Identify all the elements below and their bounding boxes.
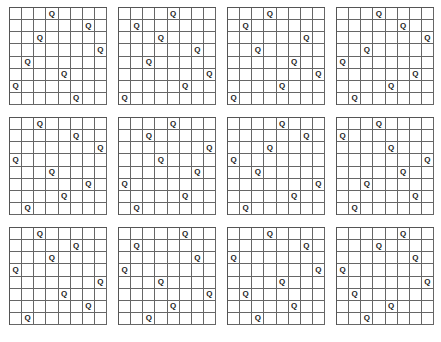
board-cell [301,20,313,32]
board-cell [373,191,385,203]
board-cell [277,32,289,44]
queen-icon: Q [59,289,71,301]
board-cell [34,179,46,191]
board-cell [240,179,252,191]
board-cell [240,167,252,179]
board-cell [131,44,143,56]
board-cell [22,252,34,264]
board-cell [22,118,34,130]
board-cell [46,57,58,69]
board-cell [337,301,349,313]
board-cell [22,301,34,313]
board-cell [95,81,107,93]
board-cell [386,57,398,69]
board-cell [228,264,240,276]
board-cell [398,203,410,215]
board-cell [46,277,58,289]
board-cell [143,118,155,130]
board-cell [301,203,313,215]
board-cell [252,57,264,69]
queen-icon: Q [83,179,95,191]
board-cell [180,32,192,44]
board-cell [59,240,71,252]
board-cell [289,142,301,154]
board-cell [301,277,313,289]
board-cell [361,93,373,105]
solutions-grid: QQQQQQQQQQQQQQQQQQQQQQQQQQQQQQQQQQQQQQQQ… [9,7,435,326]
board-cell [301,301,313,313]
board-cell [119,20,131,32]
board-cell [289,8,301,20]
board-cell [168,81,180,93]
board-cell [59,32,71,44]
board-cell [264,44,276,56]
queen-icon: Q [277,277,289,289]
queen-icon: Q [168,118,180,130]
queen-icon: Q [277,81,289,93]
board-cell [10,118,22,130]
board-cell [34,142,46,154]
board-cell [349,179,361,191]
board-cell [277,179,289,191]
chessboard-solution-1: QQQQQQQQ [9,7,107,105]
board-cell [22,8,34,20]
board-cell [46,44,58,56]
board-cell [168,130,180,142]
board-cell [410,93,422,105]
board-cell [180,167,192,179]
board-cell [119,32,131,44]
board-cell [34,289,46,301]
board-cell [119,118,131,130]
queen-icon: Q [252,167,264,179]
board-cell [59,8,71,20]
board-cell [34,81,46,93]
board-cell [289,228,301,240]
board-cell [10,313,22,325]
board-cell [361,81,373,93]
board-cell [34,44,46,56]
board-cell [373,154,385,166]
board-cell [398,179,410,191]
board-cell [410,81,422,93]
queen-icon: Q [361,313,373,325]
queen-icon: Q [143,57,155,69]
board-cell [131,32,143,44]
board-cell [386,252,398,264]
board-cell [398,69,410,81]
board-cell [204,179,216,191]
chessboard-solution-2: QQQQQQQQ [118,7,216,105]
board-cell [410,167,422,179]
board-cell [10,8,22,20]
board-cell [264,252,276,264]
board-cell [373,93,385,105]
board-cell [410,203,422,215]
board-cell [204,8,216,20]
board-cell [289,240,301,252]
board-cell [337,69,349,81]
board-cell [386,228,398,240]
board-cell [22,240,34,252]
board-cell [349,130,361,142]
board-cell [83,8,95,20]
board-cell [373,313,385,325]
board-cell [119,81,131,93]
board-cell [361,301,373,313]
board-cell [119,142,131,154]
board-cell [349,32,361,44]
board-cell [119,130,131,142]
board-cell [410,44,422,56]
queen-icon: Q [277,118,289,130]
board-cell [277,252,289,264]
board-cell [240,142,252,154]
queen-icon: Q [240,289,252,301]
board-cell [289,289,301,301]
board-cell [422,264,434,276]
board-cell [289,32,301,44]
board-cell [240,93,252,105]
queen-icon: Q [46,8,58,20]
board-cell [180,154,192,166]
board-cell [410,289,422,301]
board-cell [155,142,167,154]
queen-icon: Q [192,252,204,264]
board-cell [10,69,22,81]
